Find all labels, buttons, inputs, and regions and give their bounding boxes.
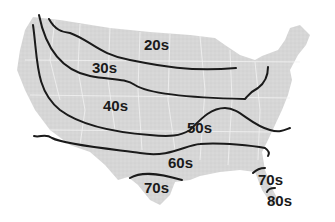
label-60s: 60s <box>168 154 193 171</box>
label-30s: 30s <box>92 59 117 76</box>
us-map-svg: 20s 30s 40s 50s 60s 70s 70s 80s <box>0 0 335 222</box>
label-70s-west: 70s <box>144 179 169 196</box>
label-80s: 80s <box>267 192 292 209</box>
label-50s: 50s <box>187 119 212 136</box>
temperature-map: 20s 30s 40s 50s 60s 70s 70s 80s <box>0 0 335 222</box>
label-20s: 20s <box>144 36 169 53</box>
label-40s: 40s <box>103 97 128 114</box>
label-70s-florida: 70s <box>258 171 283 188</box>
